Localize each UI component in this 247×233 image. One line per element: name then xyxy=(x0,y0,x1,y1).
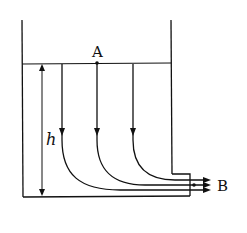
right-wall xyxy=(171,20,172,174)
height-dimension: h xyxy=(39,64,56,196)
arrow-down-icon xyxy=(94,128,100,136)
left-wall xyxy=(22,20,23,197)
outflow-arrows xyxy=(203,177,211,193)
point-b-label: B xyxy=(217,177,228,195)
streamline-3 xyxy=(133,64,205,180)
arrow-up-icon xyxy=(39,64,45,71)
point-b-dot xyxy=(192,183,196,187)
diagram-canvas: A h B xyxy=(0,0,247,233)
streamline-2 xyxy=(97,64,205,185)
arrow-right-icon xyxy=(203,187,211,193)
streamlines xyxy=(62,64,205,190)
point-a-label: A xyxy=(91,43,103,61)
height-label: h xyxy=(46,130,56,149)
arrow-right-icon xyxy=(203,182,211,188)
arrow-down-icon xyxy=(130,128,136,136)
arrow-down-icon xyxy=(39,189,45,196)
arrow-down-icon xyxy=(59,128,65,136)
arrow-right-icon xyxy=(203,177,211,183)
bottom-wall xyxy=(23,196,190,197)
